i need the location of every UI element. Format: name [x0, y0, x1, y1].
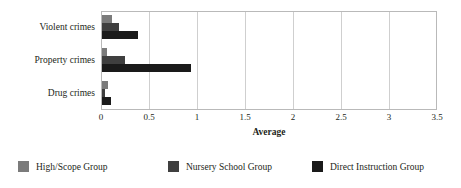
bar-violent-crimes-nursery-school-group [102, 23, 119, 31]
bar-group-drug-crimes [102, 81, 438, 114]
x-tick-0.5: 0.5 [143, 112, 154, 122]
bar-property-crimes-high-scope-group [102, 48, 107, 56]
category-label-drug-crimes: Drug crimes [0, 88, 95, 99]
x-axis-title: Average [101, 127, 437, 137]
category-label-property-crimes: Property crimes [0, 55, 95, 66]
bar-group-property-crimes [102, 48, 438, 81]
x-tick-0: 0 [99, 112, 104, 122]
bar-group-violent-crimes [102, 15, 438, 48]
legend-swatch-nursery-school-group [168, 161, 179, 172]
x-tick-1: 1 [195, 112, 200, 122]
x-tick-3.5: 3.5 [431, 112, 442, 122]
chart-legend: High/Scope Group Nursery School Group Di… [0, 158, 461, 182]
bar-property-crimes-direct-instruction-group [102, 64, 191, 72]
legend-item-high-scope-group: High/Scope Group [18, 161, 108, 172]
bar-violent-crimes-high-scope-group [102, 15, 112, 23]
bar-violent-crimes-direct-instruction-group [102, 31, 138, 39]
legend-swatch-high-scope-group [18, 161, 29, 172]
legend-item-direct-instruction-group: Direct Instruction Group [312, 161, 424, 172]
x-tick-2.5: 2.5 [335, 112, 346, 122]
category-label-violent-crimes: Violent crimes [0, 22, 95, 33]
legend-label-high-scope-group: High/Scope Group [36, 162, 108, 172]
legend-swatch-direct-instruction-group [312, 161, 323, 172]
x-tick-3: 3 [387, 112, 392, 122]
legend-label-direct-instruction-group: Direct Instruction Group [330, 162, 424, 172]
bar-drug-crimes-nursery-school-group [102, 89, 105, 97]
bar-chart: Violent crimes Property crimes Drug crim… [0, 0, 461, 150]
x-tick-2: 2 [291, 112, 296, 122]
bar-property-crimes-nursery-school-group [102, 56, 125, 64]
legend-label-nursery-school-group: Nursery School Group [186, 162, 272, 172]
x-tick-1.5: 1.5 [239, 112, 250, 122]
bar-drug-crimes-direct-instruction-group [102, 97, 111, 105]
plot-area [101, 11, 437, 110]
legend-item-nursery-school-group: Nursery School Group [168, 161, 272, 172]
bar-drug-crimes-high-scope-group [102, 81, 108, 89]
